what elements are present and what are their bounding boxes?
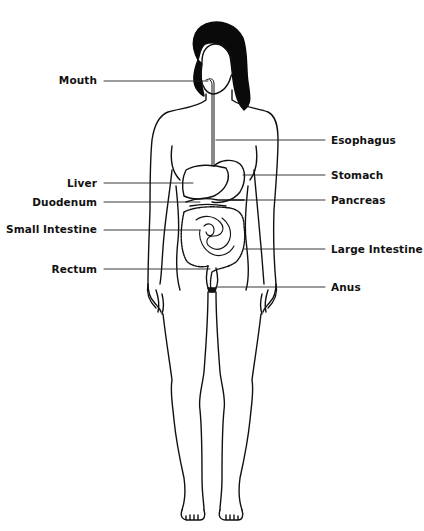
torso-right-outline [232, 90, 278, 312]
right-inner-arm [254, 170, 264, 284]
left-breast-line [171, 146, 180, 180]
right-waist [245, 186, 248, 290]
right-foot [219, 510, 243, 520]
label-large-intestine: Large Intestine [331, 243, 423, 255]
label-anus: Anus [331, 281, 361, 293]
left-inner-arm [160, 170, 172, 284]
left-leg-outer [163, 314, 185, 510]
left-hand [147, 284, 163, 314]
label-esophagus: Esophagus [331, 134, 396, 146]
right-leg-outer [239, 314, 261, 510]
digestive-system-diagram: Mouth Liver Duodenum Small Intestine Rec… [0, 0, 424, 531]
label-rectum: Rectum [52, 263, 97, 275]
anus [208, 288, 216, 292]
label-stomach: Stomach [331, 169, 383, 181]
label-pancreas: Pancreas [331, 194, 386, 206]
right-hand [261, 284, 277, 314]
small-intestine [196, 216, 234, 255]
label-mouth: Mouth [59, 74, 97, 86]
label-duodenum: Duodenum [32, 196, 97, 208]
label-liver: Liver [67, 177, 97, 189]
liver [183, 165, 229, 199]
right-leg-inner [216, 292, 225, 510]
hair-left-strand [194, 60, 204, 96]
left-leg-inner [199, 292, 208, 510]
large-intestine [181, 207, 245, 292]
left-foot [181, 510, 205, 520]
face-outline [201, 44, 234, 94]
label-small-intestine: Small Intestine [6, 223, 97, 235]
